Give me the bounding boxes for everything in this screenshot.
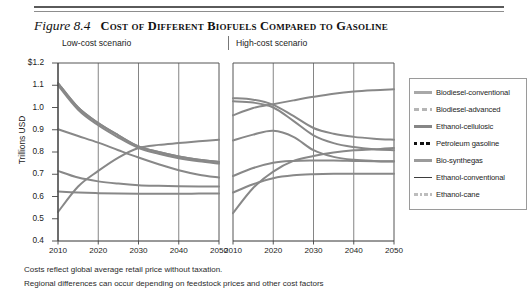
y-tick-label: 0.8 (18, 147, 44, 155)
y-tick-label: 0.6 (18, 192, 44, 200)
footnote-line-1: Costs reflect global average retail pric… (24, 265, 222, 274)
x-tick-label: 2020 (253, 246, 293, 255)
page-title: Cost of Different Biofuels Compared to G… (101, 19, 388, 34)
y-axis (52, 63, 58, 241)
solid-line-swatch (414, 156, 432, 166)
y-tick-label: $1.2 (18, 58, 44, 66)
footnote-line-2: Regional differences can occur depending… (24, 279, 324, 288)
y-tick-label: 0.4 (18, 236, 44, 244)
figure-number: Figure 8.4 (34, 18, 91, 34)
y-tick-label: 0.9 (18, 125, 44, 133)
x-tick-label: 2050 (374, 246, 414, 255)
x-tick-label: 2040 (334, 246, 374, 255)
x-tick-label: 2010 (38, 246, 78, 255)
dotted-line-swatch (414, 139, 432, 149)
x-tick-label: 2030 (119, 246, 159, 255)
dashdot-line-swatch (414, 190, 432, 200)
x-tick-label: 2040 (159, 246, 199, 255)
legend-item-label: Ethanol-cellulosic (436, 122, 493, 131)
dashed-line-swatch (414, 105, 432, 115)
legend-item[interactable]: Ethanol-cane (414, 186, 523, 203)
legend-item[interactable]: Ethanol-conventional (414, 169, 523, 186)
y-axis-label: Trillions USD (17, 100, 27, 180)
legend-item-label: Biodiesel-conventional (436, 88, 510, 97)
y-tick-label: 1.0 (18, 103, 44, 111)
panel-title-high-cost: High-cost scenario (236, 38, 307, 48)
solid-line-swatch (414, 173, 432, 183)
x-tick-label: 2010 (213, 246, 253, 255)
legend-item[interactable]: Bio-synthegas (414, 152, 523, 169)
y-tick-label: 1.1 (18, 80, 44, 88)
legend-item[interactable]: Biodiesel-conventional (414, 84, 523, 101)
legend-item-label: Biodiesel-advanced (436, 105, 500, 114)
x-tick-label: 2020 (78, 246, 118, 255)
legend-item-label: Bio-synthegas (436, 156, 483, 165)
panel-title-low-cost: Low-cost scenario (62, 38, 131, 48)
chart-legend: Biodiesel-conventionalBiodiesel-advanced… (409, 78, 527, 210)
top-rule (34, 6, 504, 12)
legend-item[interactable]: Biodiesel-advanced (414, 101, 523, 118)
panel-divider (228, 36, 229, 50)
y-tick-label: 0.7 (18, 169, 44, 177)
figure-title-row: Figure 8.4 Cost of Different Biofuels Co… (34, 14, 504, 34)
legend-item-label: Ethanol-cane (436, 190, 480, 199)
panel-high-cost (233, 63, 394, 245)
figure-container: Figure 8.4 Cost of Different Biofuels Co… (0, 0, 532, 300)
legend-item-label: Petroleum gasoline (436, 139, 499, 148)
x-tick-label: 2030 (294, 246, 334, 255)
legend-item-label: Ethanol-conventional (436, 173, 505, 182)
panel-low-cost (58, 63, 219, 245)
legend-item[interactable]: Petroleum gasoline (414, 135, 523, 152)
solid-line-swatch (414, 122, 432, 132)
y-tick-label: 0.5 (18, 214, 44, 222)
solid-line-swatch (414, 88, 432, 98)
legend-item[interactable]: Ethanol-cellulosic (414, 118, 523, 135)
